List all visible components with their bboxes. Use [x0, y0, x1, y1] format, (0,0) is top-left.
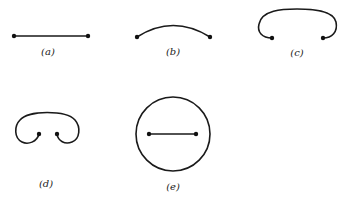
loop-d [16, 113, 79, 144]
label-a: (a) [41, 46, 55, 57]
panel-e: (e) [136, 97, 210, 192]
loop-c [259, 9, 337, 38]
panel-b: (b) [135, 26, 212, 58]
endpoint-d-left [37, 132, 41, 136]
endpoint-b-left [135, 35, 139, 39]
curve-deformation-diagram: (a) (b) (c) (d) (e) [0, 0, 349, 201]
endpoint-e-right [194, 132, 198, 136]
panel-a: (a) [12, 34, 90, 57]
panel-d: (d) [16, 113, 79, 190]
endpoint-c-right [321, 36, 325, 40]
endpoint-c-left [270, 36, 274, 40]
endpoint-a-left [12, 34, 16, 38]
panel-c: (c) [259, 9, 337, 58]
endpoint-d-right [55, 132, 59, 136]
endpoint-b-right [208, 35, 212, 39]
label-b: (b) [166, 46, 180, 57]
label-e: (e) [166, 181, 180, 192]
arc-b [137, 26, 210, 38]
endpoint-a-right [86, 34, 90, 38]
endpoint-e-left [147, 132, 151, 136]
label-c: (c) [290, 47, 304, 58]
label-d: (d) [39, 178, 53, 189]
